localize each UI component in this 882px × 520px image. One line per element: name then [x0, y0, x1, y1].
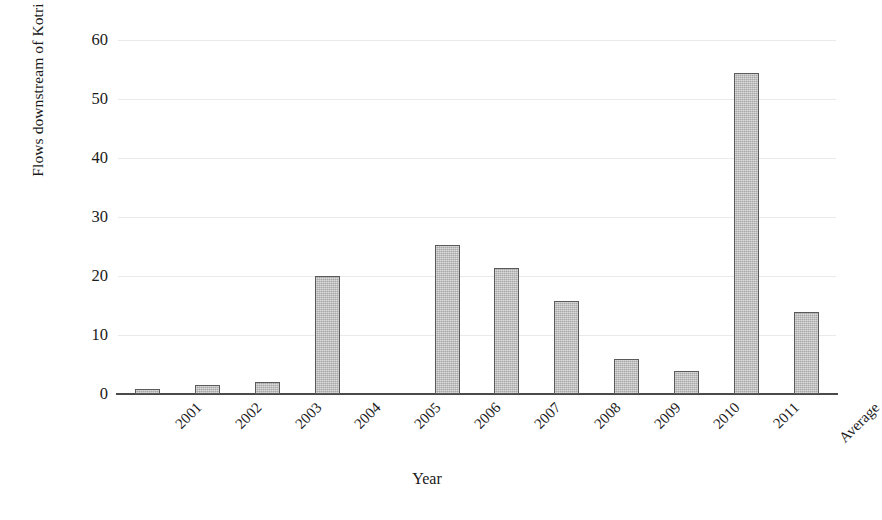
x-tick-label-text: 2008: [592, 400, 624, 432]
bar[interactable]: [435, 245, 460, 394]
x-tick-label: 2010: [711, 400, 743, 432]
x-tick-label: 2002: [233, 400, 265, 432]
x-tick-label-text: 2001: [173, 400, 205, 432]
x-tick-label: 2003: [292, 400, 324, 432]
x-axis-tick-labels: 2001200220032004200520062007200820092010…: [118, 394, 836, 464]
bar[interactable]: [195, 385, 220, 394]
y-tick-label: 20: [68, 268, 108, 285]
x-tick-label: 2006: [472, 400, 504, 432]
y-tick-label: 30: [68, 209, 108, 226]
bar[interactable]: [734, 73, 759, 394]
y-tick-label: 0: [68, 386, 108, 403]
y-tick-label: 50: [68, 91, 108, 108]
x-tick-label: 2011: [771, 400, 802, 431]
bar[interactable]: [554, 301, 579, 394]
x-tick-label: Average: [837, 400, 882, 446]
y-tick-label: 40: [68, 150, 108, 167]
x-tick-label-text: 2010: [711, 400, 743, 432]
y-axis-tick-labels: 0102030405060: [58, 40, 108, 396]
x-tick-label: 2001: [173, 400, 205, 432]
bar[interactable]: [614, 359, 639, 394]
x-tick-label-text: 2002: [233, 400, 265, 432]
x-tick-label-text: 2007: [532, 400, 564, 432]
y-tick-label: 10: [68, 327, 108, 344]
x-tick-label-text: 2005: [412, 400, 444, 432]
bar[interactable]: [494, 268, 519, 394]
x-tick-label-text: 2011: [771, 400, 802, 431]
bar[interactable]: [315, 276, 340, 394]
x-tick-label-text: 2003: [292, 400, 324, 432]
bar[interactable]: [255, 382, 280, 394]
x-axis-title: Year: [0, 470, 854, 488]
bars-layer: [118, 40, 836, 394]
x-tick-label: 2005: [412, 400, 444, 432]
bar[interactable]: [674, 371, 699, 394]
x-tick-label: 2004: [352, 400, 384, 432]
x-tick-label-text: Average: [837, 400, 882, 446]
y-tick-label: 60: [68, 32, 108, 49]
x-tick-label: 2007: [532, 400, 564, 432]
x-tick-label: 2009: [651, 400, 683, 432]
bar[interactable]: [794, 312, 819, 394]
x-tick-label-text: 2006: [472, 400, 504, 432]
x-tick-label: 2008: [592, 400, 624, 432]
x-tick-label-text: 2004: [352, 400, 384, 432]
x-tick-label-text: 2009: [651, 400, 683, 432]
